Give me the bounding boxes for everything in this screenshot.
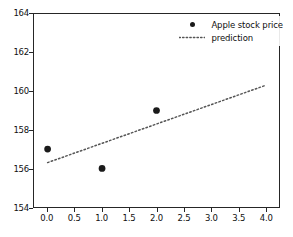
- data-point-marker: [44, 146, 51, 153]
- legend-label-prediction: prediction: [211, 33, 253, 43]
- x-tick-label: 0.5: [68, 213, 81, 223]
- x-tick-label: 2.5: [177, 213, 190, 223]
- y-tick-label: 158: [13, 125, 29, 135]
- data-point-marker: [153, 107, 160, 114]
- x-tick-label: 3.0: [205, 213, 218, 223]
- y-tick-mark: [29, 130, 33, 131]
- x-tick-mark: [74, 208, 75, 212]
- x-tick-mark: [266, 208, 267, 212]
- x-tick-mark: [239, 208, 240, 212]
- x-tick-mark: [184, 208, 185, 212]
- y-tick-label: 156: [13, 164, 29, 174]
- x-tick-label: 0.0: [40, 213, 53, 223]
- x-tick-mark: [47, 208, 48, 212]
- chart-figure: 154156158160162164 0.00.51.01.52.02.53.0…: [0, 0, 293, 237]
- y-tick-mark: [29, 52, 33, 53]
- x-tick-mark: [129, 208, 130, 212]
- data-point-marker: [99, 165, 106, 172]
- y-tick-mark: [29, 169, 33, 170]
- x-tick-label: 2.0: [150, 213, 163, 223]
- x-tick-label: 3.5: [232, 213, 245, 223]
- y-tick-mark: [29, 208, 33, 209]
- x-tick-label: 4.0: [260, 213, 273, 223]
- prediction-line: [48, 85, 266, 162]
- y-tick-mark: [29, 13, 33, 14]
- legend-label-apple-stock-price: Apple stock price: [211, 20, 283, 30]
- x-tick-mark: [157, 208, 158, 212]
- legend-item-prediction: prediction: [176, 31, 283, 44]
- y-tick-label: 162: [13, 47, 29, 57]
- legend-marker-dot-icon: [176, 22, 208, 27]
- y-tick-mark: [29, 91, 33, 92]
- x-tick-label: 1.0: [95, 213, 108, 223]
- y-tick-label: 154: [13, 203, 29, 213]
- legend-item-apple-stock-price: Apple stock price: [176, 18, 283, 31]
- x-tick-mark: [211, 208, 212, 212]
- y-tick-label: 164: [13, 8, 29, 18]
- x-tick-label: 1.5: [123, 213, 136, 223]
- y-tick-label: 160: [13, 86, 29, 96]
- legend-dotted-line-icon: [176, 36, 208, 39]
- x-tick-mark: [102, 208, 103, 212]
- chart-legend: Apple stock price prediction: [172, 16, 287, 46]
